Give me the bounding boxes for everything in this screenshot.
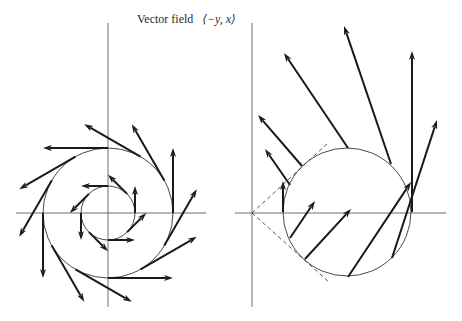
vector-arrow — [305, 209, 351, 259]
vector-arrow — [40, 213, 46, 278]
tangent-dashed-line — [252, 144, 327, 213]
vector-arrow — [284, 53, 348, 148]
vector-arrow — [76, 269, 132, 302]
right-panel-offset-circle-field — [235, 23, 446, 307]
vector-arrow — [78, 213, 84, 240]
vector-arrow — [43, 145, 108, 151]
vector-arrow — [141, 237, 197, 270]
vector-arrow — [52, 246, 85, 302]
vector-arrow — [170, 148, 176, 213]
vector-arrow — [81, 183, 108, 189]
vector-arrow — [392, 120, 437, 258]
vector-arrow — [132, 186, 138, 213]
vector-arrow — [258, 115, 302, 166]
vector-arrow — [265, 149, 290, 185]
vector-arrow — [108, 275, 173, 281]
vector-arrow — [84, 124, 140, 156]
vector-arrow — [89, 232, 108, 251]
vector-arrow — [19, 181, 52, 237]
right-arrows — [258, 26, 437, 277]
vector-arrow — [164, 189, 197, 245]
vector-arrow — [108, 175, 127, 194]
vector-field-figure — [0, 0, 462, 321]
vector-arrow — [132, 124, 165, 180]
tangent-dashed-line — [252, 213, 330, 283]
vector-arrow — [70, 194, 89, 213]
vector-arrow — [127, 213, 146, 232]
vector-arrow — [290, 201, 315, 238]
left-panel-circular-field — [16, 23, 206, 307]
vector-arrow — [344, 26, 391, 164]
vector-arrow — [108, 237, 135, 243]
vector-arrow — [19, 157, 75, 190]
